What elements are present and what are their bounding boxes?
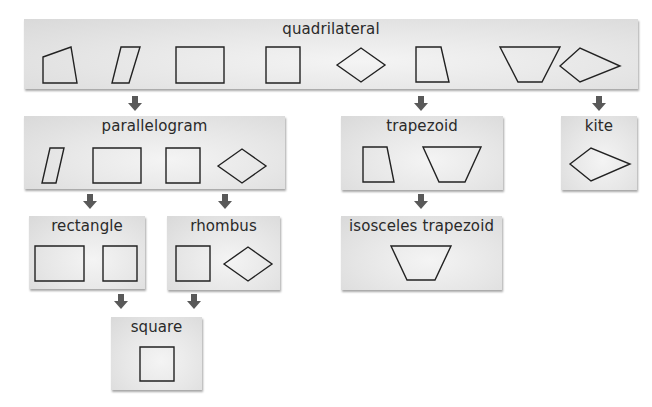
- trapezoid-shapes: [341, 116, 503, 190]
- rectangle-shape: [93, 148, 141, 183]
- rhombus-shape: [224, 247, 272, 281]
- arrow-down-icon: [218, 194, 232, 209]
- arrow-down-icon: [114, 294, 128, 309]
- node-trapezoid: trapezoid: [341, 116, 503, 190]
- rectangle-shapes: [29, 216, 145, 289]
- arrow-down-icon: [83, 194, 97, 209]
- square-shape: [166, 148, 200, 183]
- parallelogram-shape: [42, 148, 64, 183]
- arrow-down-icon: [128, 96, 142, 111]
- trapezoid-shape: [416, 47, 449, 82]
- rhombus-shape: [337, 48, 385, 82]
- node-isosceles-trapezoid: isosceles trapezoid: [341, 216, 502, 290]
- square-shape: [176, 246, 210, 281]
- kite-shape: [560, 48, 620, 82]
- arrow-down-icon: [414, 96, 428, 111]
- isosceles-trapezoid-shapes: [341, 216, 502, 290]
- node-quadrilateral: quadrilateral: [24, 19, 638, 89]
- rhombus-shape: [218, 149, 266, 183]
- square-shapes: [111, 317, 202, 390]
- arrow-down-icon: [592, 96, 606, 111]
- parallelogram-shape: [112, 47, 140, 83]
- rectangle-shape: [176, 47, 224, 83]
- arrow-down-icon: [414, 194, 428, 209]
- square-shape: [266, 47, 300, 83]
- trapezoid-shape: [363, 147, 394, 182]
- general-quadrilateral-shape: [43, 47, 77, 83]
- node-square: square: [111, 317, 202, 390]
- node-rectangle: rectangle: [29, 216, 145, 289]
- kite-shape: [570, 148, 630, 181]
- rectangle-shape: [35, 246, 84, 281]
- node-parallelogram: parallelogram: [24, 116, 285, 189]
- arrow-down-icon: [187, 294, 201, 309]
- quadrilateral-shapes: [24, 19, 638, 89]
- isosceles-trapezoid-shape: [500, 47, 560, 82]
- isosceles-trapezoid-shape: [391, 246, 451, 280]
- square-shape: [140, 347, 174, 381]
- parallelogram-shapes: [24, 116, 285, 189]
- isosceles-trapezoid-shape: [423, 147, 481, 182]
- node-rhombus: rhombus: [167, 216, 280, 290]
- node-kite: kite: [561, 116, 637, 190]
- square-shape: [103, 246, 137, 281]
- kite-shapes: [561, 116, 637, 190]
- rhombus-shapes: [167, 216, 280, 290]
